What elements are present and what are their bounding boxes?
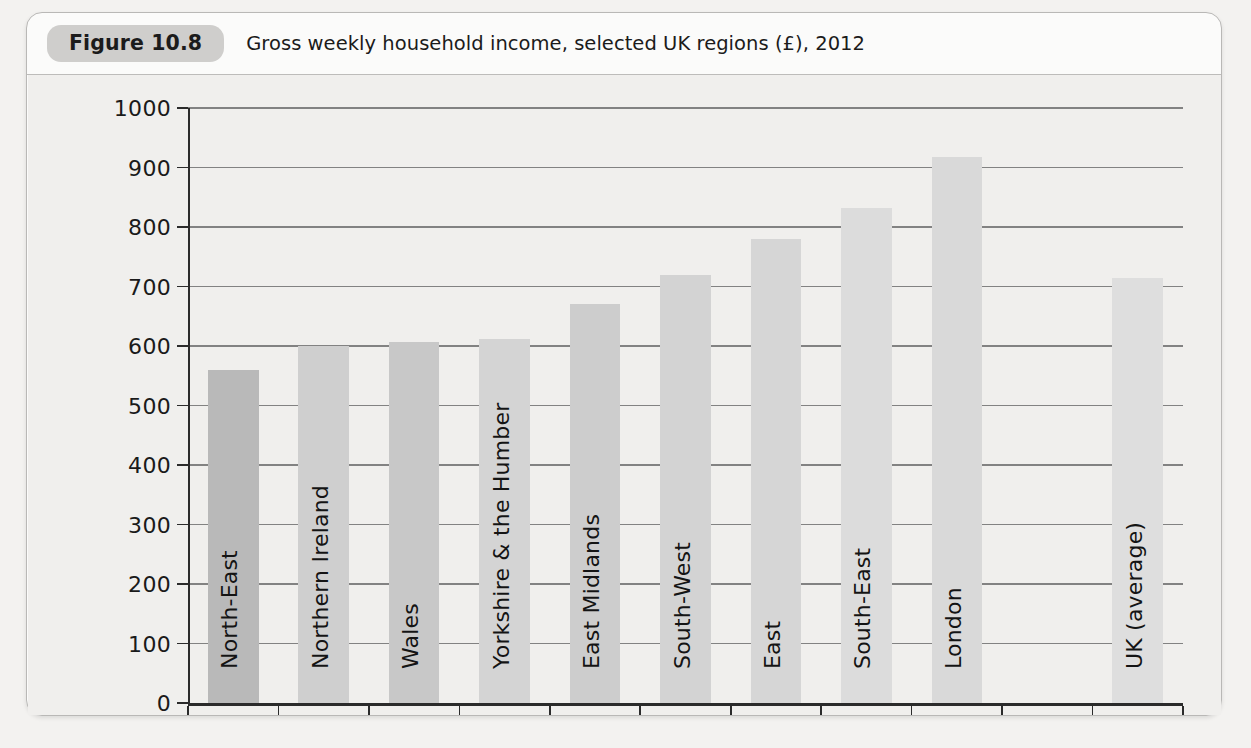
x-axis-tick: [730, 706, 732, 715]
chart-plot-area: 01002003004005006007008009001000North-Ea…: [28, 75, 1221, 715]
chart-canvas: 01002003004005006007008009001000North-Ea…: [28, 75, 1221, 715]
x-axis-tick: [1001, 706, 1003, 715]
x-axis-tick: [278, 706, 280, 715]
figure-number-badge: Figure 10.8: [47, 25, 224, 62]
y-axis-tick: [177, 345, 188, 347]
x-axis-tick: [911, 706, 913, 715]
y-axis-label: 0: [79, 691, 171, 716]
y-axis-tick: [177, 464, 188, 466]
y-axis-label: 600: [79, 334, 171, 359]
y-axis-label: 700: [79, 274, 171, 299]
x-axis-line: [188, 703, 1183, 706]
x-axis-tick: [368, 706, 370, 715]
y-axis-label: 800: [79, 215, 171, 240]
gridline: [188, 167, 1183, 168]
x-axis-tick: [549, 706, 551, 715]
y-axis-label: 900: [79, 155, 171, 180]
y-axis-line: [188, 108, 190, 705]
y-axis-label: 100: [79, 631, 171, 656]
y-axis-label: 1000: [79, 96, 171, 121]
page-root: Figure 10.8 Gross weekly household incom…: [0, 0, 1251, 748]
figure-caption: Gross weekly household income, selected …: [246, 32, 865, 55]
x-axis-tick: [1092, 706, 1094, 715]
x-axis-tick: [820, 706, 822, 715]
y-axis-tick: [177, 167, 188, 169]
y-axis-tick: [177, 702, 188, 704]
x-axis-tick: [639, 706, 641, 715]
gridline: [188, 226, 1183, 227]
y-axis-tick: [177, 405, 188, 407]
y-axis-tick: [177, 583, 188, 585]
y-axis-label: 300: [79, 512, 171, 537]
x-axis-tick: [459, 706, 461, 715]
y-axis-tick: [177, 643, 188, 645]
y-axis-tick: [177, 226, 188, 228]
y-axis-tick: [177, 286, 188, 288]
y-axis-label: 500: [79, 393, 171, 418]
x-axis-tick: [1182, 706, 1184, 715]
y-axis-tick: [177, 107, 188, 109]
figure-frame: Figure 10.8 Gross weekly household incom…: [26, 12, 1222, 716]
gridline: [188, 107, 1183, 108]
figure-header: Figure 10.8 Gross weekly household incom…: [27, 13, 1221, 75]
y-axis-label: 400: [79, 453, 171, 478]
x-axis-tick: [187, 706, 189, 715]
y-axis-tick: [177, 524, 188, 526]
y-axis-label: 200: [79, 572, 171, 597]
